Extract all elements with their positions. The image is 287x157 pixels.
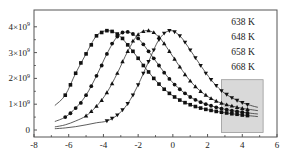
marker-638k bbox=[194, 105, 198, 109]
marker-648k bbox=[194, 98, 198, 102]
marker-638k bbox=[147, 70, 151, 74]
marker-638k bbox=[121, 37, 125, 41]
marker-648k bbox=[157, 64, 161, 68]
marker-658k bbox=[105, 90, 109, 94]
marker-638k bbox=[162, 87, 166, 91]
marker-648k bbox=[204, 102, 208, 106]
y-tick-label: 0 bbox=[26, 125, 31, 135]
marker-668k bbox=[172, 30, 176, 34]
x-tick-label: 0 bbox=[171, 140, 176, 150]
marker-648k bbox=[152, 56, 156, 60]
marker-638k bbox=[131, 50, 135, 54]
marker-668k bbox=[136, 83, 140, 87]
x-tick-label: 4 bbox=[240, 140, 245, 150]
legend: 638 K648 K658 K668 K bbox=[231, 17, 255, 72]
marker-648k bbox=[141, 42, 145, 46]
marker-648k bbox=[246, 111, 250, 115]
marker-648k bbox=[225, 108, 229, 112]
marker-638k bbox=[95, 34, 99, 38]
marker-648k bbox=[136, 37, 140, 41]
x-tick-label: -2 bbox=[134, 140, 142, 150]
marker-658k bbox=[204, 93, 208, 97]
marker-648k bbox=[178, 87, 182, 91]
marker-658k bbox=[209, 96, 213, 100]
marker-668k bbox=[141, 72, 145, 76]
marker-648k bbox=[84, 93, 88, 97]
marker-638k bbox=[63, 93, 67, 97]
data-markers bbox=[63, 28, 249, 123]
marker-648k bbox=[240, 110, 244, 114]
marker-638k bbox=[220, 110, 224, 114]
marker-668k bbox=[110, 117, 114, 121]
marker-638k bbox=[152, 77, 156, 81]
marker-648k bbox=[188, 95, 192, 99]
marker-638k bbox=[157, 82, 161, 86]
marker-648k bbox=[100, 64, 104, 68]
y-tick-label: 2×109 bbox=[8, 73, 30, 84]
marker-658k bbox=[84, 114, 88, 118]
marker-638k bbox=[100, 31, 104, 35]
marker-648k bbox=[199, 100, 203, 104]
marker-638k bbox=[79, 61, 83, 65]
marker-658k bbox=[115, 71, 119, 75]
marker-668k bbox=[115, 113, 119, 117]
y-tick-label: 3×109 bbox=[8, 47, 30, 58]
marker-668k bbox=[157, 38, 161, 42]
marker-648k bbox=[121, 31, 125, 35]
marker-638k bbox=[126, 43, 130, 47]
y-axis: 01×1092×1093×1094×109 bbox=[8, 21, 37, 135]
marker-638k bbox=[89, 43, 93, 47]
legend-entry: 668 K bbox=[231, 62, 255, 72]
marker-648k bbox=[110, 42, 114, 46]
marker-658k bbox=[120, 59, 124, 63]
marker-658k bbox=[126, 49, 130, 53]
marker-638k bbox=[74, 71, 78, 75]
marker-648k bbox=[162, 71, 166, 75]
marker-648k bbox=[79, 101, 83, 105]
marker-648k bbox=[230, 109, 234, 113]
marker-648k bbox=[95, 74, 99, 78]
legend-entry: 658 K bbox=[231, 47, 255, 57]
marker-638k bbox=[105, 29, 109, 33]
marker-668k bbox=[131, 94, 135, 98]
marker-638k bbox=[199, 106, 203, 110]
marker-648k bbox=[173, 83, 177, 87]
marker-638k bbox=[110, 30, 114, 34]
x-tick-label: 2 bbox=[205, 140, 210, 150]
marker-638k bbox=[69, 83, 73, 87]
marker-638k bbox=[209, 109, 213, 113]
legend-entry: 648 K bbox=[231, 32, 255, 42]
marker-638k bbox=[136, 56, 140, 60]
x-tick-label: -8 bbox=[30, 140, 38, 150]
marker-638k bbox=[188, 103, 192, 107]
marker-648k bbox=[89, 84, 93, 88]
x-axis: -8-6-4-20246 bbox=[30, 134, 280, 150]
marker-648k bbox=[235, 110, 239, 114]
x-tick-label: 6 bbox=[275, 140, 280, 150]
marker-658k bbox=[110, 81, 114, 85]
marker-638k bbox=[183, 101, 187, 105]
marker-648k bbox=[147, 49, 151, 53]
marker-638k bbox=[214, 110, 218, 114]
marker-638k bbox=[225, 111, 229, 115]
x-tick-label: -4 bbox=[100, 140, 108, 150]
chart: -8-6-4-20246 01×1092×1093×1094×109 638 K… bbox=[0, 0, 287, 157]
marker-648k bbox=[63, 115, 67, 119]
marker-648k bbox=[115, 35, 119, 39]
marker-658k bbox=[183, 72, 187, 76]
legend-entry: 638 K bbox=[231, 17, 255, 27]
marker-648k bbox=[69, 111, 73, 115]
marker-648k bbox=[167, 77, 171, 81]
marker-638k bbox=[204, 108, 208, 112]
x-tick-label: -6 bbox=[65, 140, 73, 150]
marker-638k bbox=[84, 52, 88, 56]
marker-648k bbox=[209, 104, 213, 108]
marker-638k bbox=[178, 98, 182, 102]
marker-648k bbox=[214, 105, 218, 109]
marker-638k bbox=[142, 64, 146, 68]
y-tick-label: 1×109 bbox=[8, 99, 30, 110]
marker-668k bbox=[146, 60, 150, 64]
marker-648k bbox=[105, 52, 109, 56]
marker-648k bbox=[183, 91, 187, 95]
marker-668k bbox=[152, 48, 156, 52]
